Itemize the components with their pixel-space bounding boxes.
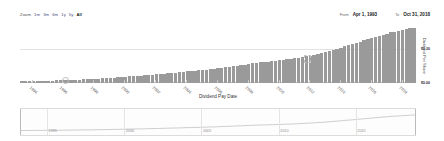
bar[interactable] xyxy=(212,69,215,83)
zoom-range-selector[interactable]: Zoom 1m 3m 6m 1y 5y All xyxy=(20,12,82,17)
bar[interactable] xyxy=(289,59,292,83)
bar[interactable] xyxy=(347,45,350,83)
bar[interactable] xyxy=(220,68,223,83)
bar[interactable] xyxy=(255,63,258,83)
bar[interactable] xyxy=(332,50,335,83)
navigator-label-1995: 1995 xyxy=(49,129,57,133)
bar[interactable] xyxy=(335,49,338,83)
bar[interactable] xyxy=(266,62,269,83)
to-date-input[interactable]: Oct 31, 2018 xyxy=(403,12,430,17)
zoom-range-6m[interactable]: 6m xyxy=(52,12,58,17)
navigator-label-2000: 2000 xyxy=(126,129,134,133)
bar[interactable] xyxy=(232,66,235,83)
zoom-range-3m[interactable]: 3m xyxy=(43,12,49,17)
y-axis-title: Dividend Per Share xyxy=(421,38,426,74)
bar[interactable] xyxy=(389,32,392,83)
bar[interactable] xyxy=(393,32,396,83)
navigator-handle-left[interactable] xyxy=(20,109,21,135)
bar[interactable] xyxy=(285,59,288,83)
x-tick-mark xyxy=(155,80,156,83)
x-tick-mark xyxy=(309,80,310,83)
bar[interactable] xyxy=(197,70,200,83)
bar[interactable] xyxy=(170,73,173,83)
bar[interactable] xyxy=(132,76,135,83)
x-tick-mark xyxy=(279,80,280,83)
bar[interactable] xyxy=(147,75,150,83)
data-point-highlight xyxy=(304,55,311,63)
bar[interactable] xyxy=(270,61,273,83)
bar[interactable] xyxy=(328,51,331,83)
x-tick-mark xyxy=(124,80,125,83)
bar[interactable] xyxy=(162,74,165,83)
navigator-label-2010: 2010 xyxy=(280,129,288,133)
plot-area: $0.00 $0.20 Dividend Per Share xyxy=(20,28,416,83)
bar[interactable] xyxy=(378,36,381,83)
bar[interactable] xyxy=(236,66,239,83)
bar[interactable] xyxy=(282,60,285,83)
bar[interactable] xyxy=(351,44,354,83)
bar[interactable] xyxy=(343,46,346,83)
navigator-label-2015: 2015 xyxy=(357,129,365,133)
bar[interactable] xyxy=(355,43,358,83)
from-date-input[interactable]: Apr 1, 1993 xyxy=(353,12,378,17)
x-axis-title: Dividend Pay Date xyxy=(20,94,416,99)
zoom-range-1y[interactable]: 1y xyxy=(61,12,66,17)
x-tick-mark xyxy=(248,80,249,83)
x-tick-mark xyxy=(217,80,218,83)
bar[interactable] xyxy=(316,54,319,83)
bar[interactable] xyxy=(339,48,342,83)
bar[interactable] xyxy=(324,52,327,83)
bar[interactable] xyxy=(397,31,400,83)
bar[interactable] xyxy=(274,61,277,83)
bar[interactable] xyxy=(228,67,231,83)
bar[interactable] xyxy=(239,65,242,83)
bar[interactable] xyxy=(139,76,142,83)
date-range-display: From Apr 1, 1993 To Oct 31, 2018 xyxy=(340,12,430,17)
bar[interactable] xyxy=(182,72,185,83)
bar[interactable] xyxy=(370,38,373,83)
chart-toolbar: Zoom 1m 3m 6m 1y 5y All From Apr 1, 1993… xyxy=(0,12,444,26)
bar[interactable] xyxy=(259,62,262,83)
zoom-range-1m[interactable]: 1m xyxy=(34,12,40,17)
bar[interactable] xyxy=(159,74,162,83)
bar[interactable] xyxy=(385,34,388,84)
bar[interactable] xyxy=(201,70,204,83)
bar[interactable] xyxy=(209,69,212,83)
x-tick-mark xyxy=(402,80,403,83)
bar[interactable] xyxy=(401,30,404,83)
bar[interactable] xyxy=(408,28,411,83)
bar[interactable] xyxy=(312,55,315,83)
zoom-range-all[interactable]: All xyxy=(76,12,82,17)
bar[interactable] xyxy=(251,63,254,83)
bar[interactable] xyxy=(362,40,365,83)
chart-navigator[interactable]: 19952000200520102015 xyxy=(20,108,416,136)
bar[interactable] xyxy=(136,76,139,83)
x-tick-mark xyxy=(32,80,33,83)
bar[interactable] xyxy=(366,39,369,83)
x-tick-mark xyxy=(340,80,341,83)
bar[interactable] xyxy=(320,53,323,83)
bar[interactable] xyxy=(193,71,196,83)
bar-series[interactable] xyxy=(20,28,416,83)
bar[interactable] xyxy=(205,70,208,83)
bar[interactable] xyxy=(297,58,300,83)
bar[interactable] xyxy=(405,29,408,83)
navigator-label-2005: 2005 xyxy=(203,129,211,133)
bar[interactable] xyxy=(143,75,146,83)
bar[interactable] xyxy=(382,35,385,83)
bar[interactable] xyxy=(374,37,377,83)
bar[interactable] xyxy=(224,67,227,83)
bar[interactable] xyxy=(359,42,362,83)
bar[interactable] xyxy=(293,58,296,83)
bar[interactable] xyxy=(178,72,181,83)
x-tick-mark xyxy=(371,80,372,83)
bar[interactable] xyxy=(166,73,169,83)
bar[interactable] xyxy=(189,71,192,83)
bar[interactable] xyxy=(243,65,246,83)
bar[interactable] xyxy=(151,75,154,83)
dividend-chart-widget: Zoom 1m 3m 6m 1y 5y All From Apr 1, 1993… xyxy=(0,0,444,141)
bar[interactable] xyxy=(174,73,177,83)
bar[interactable] xyxy=(262,62,265,83)
navigator-handle-right[interactable] xyxy=(415,109,416,135)
zoom-range-5y[interactable]: 5y xyxy=(69,12,74,17)
